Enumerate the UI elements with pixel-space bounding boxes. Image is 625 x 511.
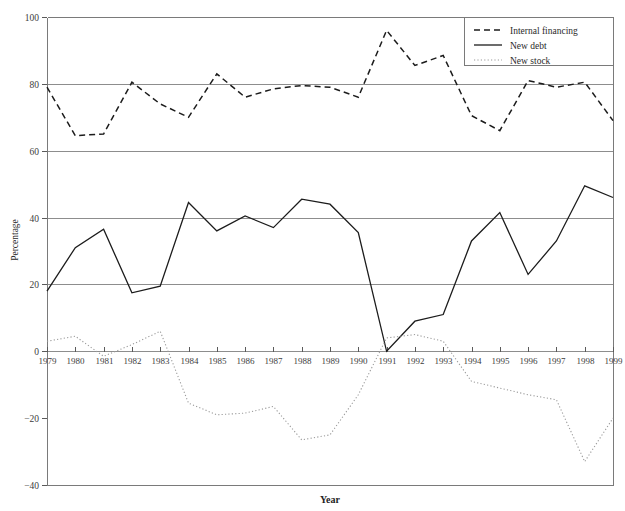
y-tick-label--40: −40 (24, 481, 39, 491)
x-tick-label-1996: 1996 (520, 356, 539, 366)
x-tick-label-1999: 1999 (605, 356, 624, 366)
chart-plot: 100806040200−20−40 197919801981198219831… (0, 0, 625, 511)
y-tick-label-80: 80 (30, 80, 40, 90)
y-axis-title: Percentage (10, 219, 20, 261)
x-tick-label-1986: 1986 (237, 356, 256, 366)
figure-container: 100806040200−20−40 197919801981198219831… (0, 0, 625, 511)
y-tick-label-100: 100 (25, 13, 40, 23)
x-tick-label-1993: 1993 (435, 356, 454, 366)
x-tick-label-1987: 1987 (265, 356, 284, 366)
x-tick-label-1991: 1991 (379, 356, 397, 366)
y-axis-ticks: 100806040200−20−40 (24, 13, 47, 491)
x-tick-label-1995: 1995 (492, 356, 511, 366)
x-axis-title: Year (320, 494, 341, 505)
legend-label-2: New stock (510, 56, 551, 66)
chart-legend: Internal financingNew debtNew stock (465, 18, 614, 66)
legend-label-1: New debt (510, 41, 547, 51)
y-tick-label-60: 60 (30, 147, 40, 157)
data-series-group (47, 30, 613, 461)
x-tick-label-1988: 1988 (294, 356, 313, 366)
x-tick-label-1982: 1982 (124, 356, 142, 366)
x-tick-label-1981: 1981 (96, 356, 114, 366)
x-tick-label-1998: 1998 (577, 356, 596, 366)
x-tick-label-1990: 1990 (350, 356, 369, 366)
x-tick-label-1992: 1992 (407, 356, 425, 366)
x-tick-label-1979: 1979 (39, 356, 58, 366)
x-tick-label-1984: 1984 (181, 356, 200, 366)
x-tick-label-1980: 1980 (67, 356, 86, 366)
x-tick-label-1983: 1983 (152, 356, 171, 366)
plot-frame (48, 18, 614, 486)
x-axis-ticks: 1979198019811982198319841985198619871988… (39, 347, 624, 366)
x-tick-label-1994: 1994 (464, 356, 483, 366)
x-tick-label-1989: 1989 (322, 356, 341, 366)
x-tick-label-1985: 1985 (209, 356, 228, 366)
y-tick-label--20: −20 (24, 414, 39, 424)
x-tick-label-1997: 1997 (548, 356, 567, 366)
gridlines-group (47, 85, 613, 352)
y-tick-label-20: 20 (30, 280, 40, 290)
legend-label-0: Internal financing (510, 26, 578, 36)
y-tick-label-40: 40 (30, 214, 40, 224)
series-line-new-debt (47, 186, 613, 351)
